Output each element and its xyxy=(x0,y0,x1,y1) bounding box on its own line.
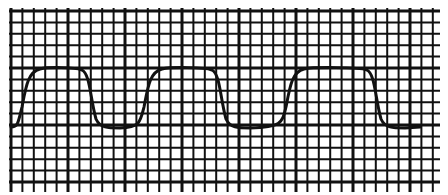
grid-lines xyxy=(9,8,440,192)
graph-paper-waveform xyxy=(0,0,448,195)
